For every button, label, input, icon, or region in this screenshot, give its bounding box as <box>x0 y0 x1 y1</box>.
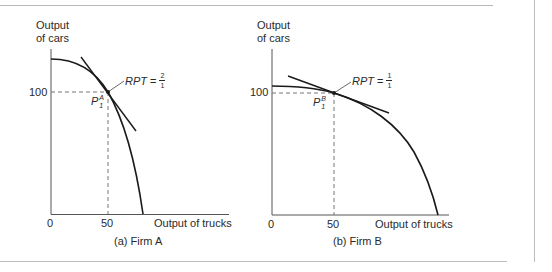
panel-a-rpt-equals: = <box>150 75 156 87</box>
panel-b-point-label: PB1 <box>313 95 326 111</box>
panel-a-rpt-label: RPT <box>125 75 147 87</box>
panel-b-tick-x50: 50 <box>327 218 339 231</box>
panel-b-tick-x0: 0 <box>268 218 274 231</box>
panel-a-y-axis-label: Output of cars <box>36 19 96 45</box>
panel-a-point-letter: P <box>91 95 98 107</box>
panel-a-rpt-denominator: 1 <box>160 82 164 89</box>
panel-a-y-label-line2: of cars <box>36 32 96 45</box>
panel-a-y-label-line1: Output <box>36 19 96 32</box>
panel-a-annotation-leader <box>108 81 124 92</box>
panel-b-point-sup: B <box>321 95 326 103</box>
panel-a-caption: (a) Firm A <box>114 235 162 248</box>
panel-b-rpt-denominator: 1 <box>387 82 391 89</box>
panel-b-point-p1b <box>332 91 336 95</box>
panel-a-point-label: PA1 <box>91 94 104 110</box>
panel-b-point-sub: 1 <box>321 103 326 111</box>
panel-a-point-sub: 1 <box>99 102 104 110</box>
panel-a-point-p1a <box>106 90 110 94</box>
panel-b-rpt-fraction: 1 1 <box>386 72 392 89</box>
panel-b-rpt-numerator: 1 <box>387 72 391 79</box>
panel-a-point-sup: A <box>99 94 104 102</box>
panel-b-x-axis-label: Output of trucks <box>375 218 453 231</box>
panel-b-ppf-curve <box>272 86 438 215</box>
panel-b-y-label-line1: Output <box>257 19 317 32</box>
panel-a-rpt-numerator: 2 <box>160 72 164 79</box>
panel-b-y-axis-label: Output of cars <box>257 19 317 45</box>
panel-b-caption: (b) Firm B <box>333 235 382 248</box>
panel-b-rpt-annotation: RPT = 1 1 <box>352 72 392 89</box>
panel-b-tick-y100: 100 <box>250 86 268 99</box>
panel-b-annotation-leader <box>334 82 351 93</box>
panel-a-tangent-line <box>81 57 136 131</box>
panel-a-rpt-annotation: RPT = 2 1 <box>125 72 165 89</box>
panel-a-tick-y100: 100 <box>29 86 47 99</box>
panel-a-rpt-fraction: 2 1 <box>159 72 165 89</box>
panel-a-tick-x0: 0 <box>47 217 53 230</box>
panel-a-tick-x50: 50 <box>101 217 113 230</box>
panel-b-rpt-label: RPT <box>352 75 374 87</box>
panel-b-y-label-line2: of cars <box>257 32 317 45</box>
panel-b-rpt-equals: = <box>377 75 383 87</box>
panel-a-x-axis-label: Output of trucks <box>154 217 232 230</box>
panel-b-point-letter: P <box>313 96 320 108</box>
